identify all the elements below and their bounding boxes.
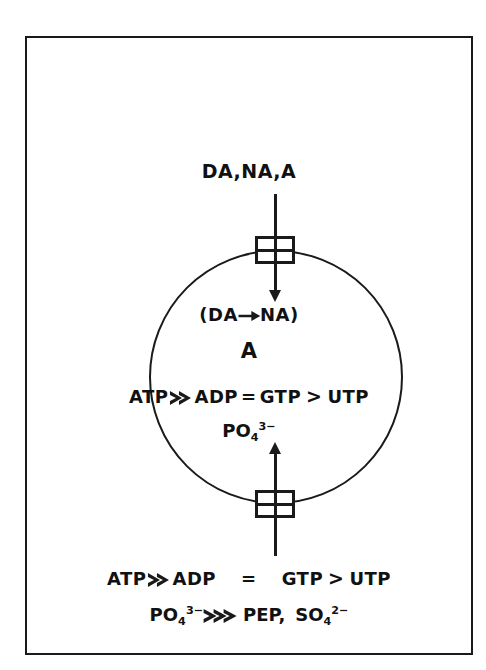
outer-phosphate-formula: PO	[150, 604, 179, 625]
very-much-greater-than-icon	[203, 607, 243, 625]
outer-anion-series: PO43−PEP,SO42−	[150, 606, 349, 625]
down-arrow-icon	[269, 290, 281, 302]
outer-series-item-2: ADP	[172, 568, 216, 589]
influx-substrates-label: DA,NA,A	[202, 162, 296, 181]
conversion-to-label: NA	[260, 304, 290, 325]
conversion-open-paren: (	[199, 304, 208, 325]
conversion-expression: (DANA)	[199, 306, 298, 325]
greater-than-icon: >	[323, 569, 349, 588]
outer-phosphate-superscript: 3−	[186, 604, 203, 617]
inner-phosphate-label: PO43−	[222, 422, 275, 440]
accumulated-species-label: A	[241, 341, 257, 362]
greater-than-icon: >	[301, 387, 327, 406]
much-greater-than-icon	[146, 571, 172, 589]
inner-phosphate-superscript: 3−	[259, 420, 276, 433]
inner-series-item-1: ATP	[129, 386, 169, 407]
conversion-from-label: DA	[208, 304, 238, 325]
equals-icon: =	[238, 570, 260, 588]
figure-frame: DA,NA,A (DANA) A ATPADP=GTP>UTP PO43− AT…	[25, 36, 473, 655]
conversion-close-paren: )	[290, 304, 299, 325]
equals-icon: =	[238, 388, 260, 406]
outer-sulfate-superscript: 2−	[331, 604, 348, 617]
outer-series-item-1: ATP	[107, 568, 147, 589]
efflux-connector-line	[274, 512, 277, 556]
inner-series-item-3: GTP	[260, 386, 301, 407]
inner-nucleotide-series: ATPADP=GTP>UTP	[129, 387, 369, 407]
outer-sulfate-formula: SO	[295, 604, 323, 625]
outer-nucleotide-series: ATPADP=GTP>UTP	[107, 569, 391, 589]
much-greater-than-icon	[168, 389, 194, 407]
inner-series-item-2: ADP	[194, 386, 238, 407]
inner-phosphate-formula: PO	[222, 420, 251, 441]
outer-pep-label: PEP,	[243, 604, 285, 625]
outer-sulfate-subscript: 4	[323, 615, 331, 628]
right-arrow-icon	[238, 307, 260, 325]
inner-series-item-4: UTP	[327, 386, 369, 407]
influx-connector-line	[274, 194, 277, 240]
outer-series-item-4: UTP	[349, 568, 391, 589]
outer-series-item-3: GTP	[282, 568, 323, 589]
